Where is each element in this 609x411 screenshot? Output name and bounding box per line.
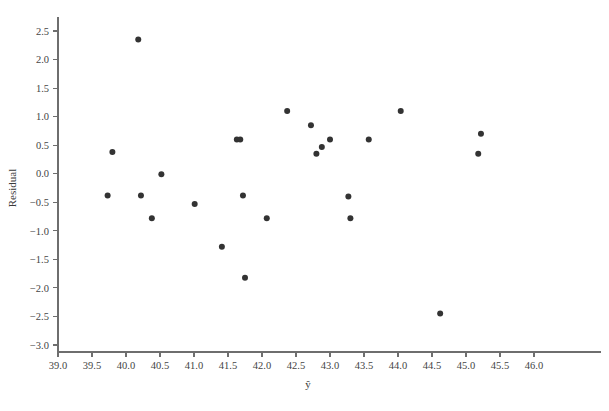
- x-tick-label: 44.0: [389, 360, 407, 371]
- y-tick-label: 2.0: [36, 54, 49, 65]
- x-tick-label: 39.0: [49, 360, 67, 371]
- data-point: [109, 149, 115, 155]
- data-point: [319, 144, 325, 150]
- y-tick-label: −2.0: [30, 283, 49, 294]
- data-point: [219, 244, 225, 250]
- data-point: [105, 192, 111, 198]
- data-point: [345, 194, 351, 200]
- x-tick-label: 42.0: [253, 360, 271, 371]
- y-tick-label: −0.5: [30, 197, 49, 208]
- data-point: [313, 151, 319, 157]
- data-point: [149, 215, 155, 221]
- x-tick-label: 42.5: [287, 360, 305, 371]
- data-point: [398, 108, 404, 114]
- data-point: [242, 275, 248, 281]
- x-tick-label: 40.5: [151, 360, 169, 371]
- data-point: [240, 192, 246, 198]
- data-point: [308, 122, 314, 128]
- x-tick-label: 39.5: [83, 360, 101, 371]
- data-point: [327, 136, 333, 142]
- y-tick-label: 1.5: [36, 83, 49, 94]
- y-tick-label: 2.5: [36, 26, 49, 37]
- y-tick-label: −2.5: [30, 311, 49, 322]
- y-axis-title: Residual: [6, 169, 18, 208]
- data-point: [437, 311, 443, 317]
- axes: [58, 17, 601, 352]
- scatter-chart: 2.52.01.51.00.50.0−0.5−1.0−1.5−2.0−2.5−3…: [0, 0, 609, 411]
- x-axis-title: ŷ: [305, 378, 311, 390]
- data-point: [475, 151, 481, 157]
- x-axis-ticks: 39.039.540.040.541.041.542.042.543.043.5…: [49, 352, 543, 371]
- data-point: [478, 131, 484, 137]
- data-point: [138, 192, 144, 198]
- data-point: [237, 136, 243, 142]
- x-tick-label: 44.5: [423, 360, 441, 371]
- x-tick-label: 40.0: [117, 360, 135, 371]
- y-tick-label: −1.0: [30, 226, 49, 237]
- data-points: [105, 37, 484, 317]
- data-point: [347, 215, 353, 221]
- data-point: [192, 201, 198, 207]
- residual-plot-figure: 2.52.01.51.00.50.0−0.5−1.0−1.5−2.0−2.5−3…: [0, 0, 609, 411]
- x-tick-label: 41.5: [219, 360, 237, 371]
- x-tick-label: 46.0: [525, 360, 543, 371]
- data-point: [158, 171, 164, 177]
- x-tick-label: 45.5: [491, 360, 509, 371]
- x-tick-label: 43.0: [321, 360, 339, 371]
- y-tick-label: 0.5: [36, 140, 49, 151]
- x-tick-label: 41.0: [185, 360, 203, 371]
- data-point: [135, 37, 141, 43]
- data-point: [284, 108, 290, 114]
- y-tick-label: −1.5: [30, 254, 49, 265]
- y-axis-ticks: 2.52.01.51.00.50.0−0.5−1.0−1.5−2.0−2.5−3…: [30, 26, 58, 351]
- y-tick-label: −3.0: [30, 340, 49, 351]
- y-tick-label: 1.0: [36, 111, 49, 122]
- x-tick-label: 45.0: [457, 360, 475, 371]
- y-tick-label: 0.0: [36, 168, 49, 179]
- data-point: [264, 215, 270, 221]
- data-point: [366, 136, 372, 142]
- x-tick-label: 43.5: [355, 360, 373, 371]
